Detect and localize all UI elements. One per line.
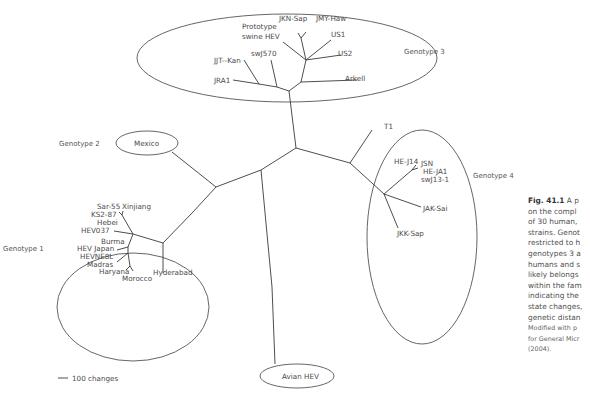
- strain-jjt-kan: JJT--Kan: [213, 56, 241, 65]
- caption-line-5: genotypes 3 a: [528, 249, 590, 260]
- genotype3-label: Genotype 3: [404, 48, 445, 56]
- caption-line-10: state changes,: [528, 302, 590, 313]
- caption-line-3: strains. Genot: [528, 228, 590, 239]
- strain-morocco: Morocco: [122, 274, 152, 283]
- genotype1-label: Genotype 1: [3, 245, 44, 253]
- strain-jra1: JRA1: [213, 76, 230, 85]
- caption-line-9: indicating the: [528, 291, 590, 302]
- caption-line-1: on the compl: [528, 207, 590, 218]
- caption-line-0: Fig. 41.1 A p: [528, 196, 590, 207]
- strain-jkn-sap: JKN-Sap: [278, 14, 308, 23]
- genotype1-branches: [114, 211, 193, 273]
- caption-line-7: likely belongs: [528, 270, 590, 281]
- strain-avian-hev: Avian HEV: [282, 372, 319, 381]
- strain-mexico: Mexico: [134, 139, 159, 148]
- strain-hyderabad: Hyderabad: [153, 268, 193, 277]
- tree-backbone: [172, 91, 350, 364]
- strain-arkell: Arkell: [345, 74, 365, 83]
- figure-number: Fig. 41.1: [528, 196, 565, 205]
- strain-t1: T1: [383, 122, 393, 131]
- strain-jmy-haw: JMY-Haw: [315, 14, 346, 23]
- caption-line-4: restricted to h: [528, 238, 590, 249]
- caption-line-8: within the fam: [528, 281, 590, 292]
- strain-us2: US2: [338, 49, 352, 58]
- strain-jak-sai: JAK-Sai: [422, 204, 447, 213]
- genotype4-label: Genotype 4: [473, 172, 514, 180]
- caption-source-1: for General Micr: [528, 334, 590, 345]
- caption-line-6: humans and s: [528, 260, 590, 271]
- strain-us1: US1: [331, 30, 345, 39]
- strain-swj13-1: swJ13-1: [421, 175, 449, 184]
- strain-swj570: swJ570: [251, 49, 277, 58]
- scale-bar-label: 100 changes: [72, 374, 118, 383]
- strain-he-j14: HE-J14: [394, 157, 419, 166]
- strain-jkk-sap: JKK-Sap: [396, 229, 424, 238]
- genotype4-branches: [350, 130, 421, 228]
- genotype2-label: Genotype 2: [59, 140, 100, 148]
- caption-source-2: (2004).: [528, 344, 590, 355]
- figure-caption: Fig. 41.1 A p on the compl of 30 human, …: [528, 196, 590, 355]
- caption-line-2: of 30 human,: [528, 217, 590, 228]
- strain-swine-hev: swine HEV: [242, 32, 280, 41]
- strain-prototype: Prototype: [242, 22, 277, 31]
- genotype3-ellipse: [137, 14, 437, 102]
- strain-xinjiang: Xinjiang: [122, 202, 151, 211]
- caption-line-11: genetic distan: [528, 313, 590, 324]
- phylogenetic-tree: 100 changes Genotype 1 Genotype 2 Genoty…: [0, 0, 590, 394]
- strain-hev037: HEV037: [81, 226, 110, 235]
- caption-source-0: Modified with p: [528, 323, 590, 334]
